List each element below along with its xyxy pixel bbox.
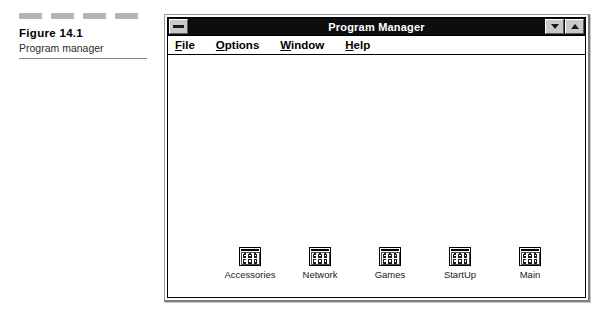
program-group-icon <box>449 247 471 266</box>
minimize-bar-icon <box>173 25 184 28</box>
program-group-label: Main <box>520 269 541 280</box>
program-group-label: Accessories <box>224 269 275 280</box>
menu-item-help[interactable]: Help <box>345 39 370 52</box>
program-group-network[interactable]: Network <box>285 247 355 280</box>
program-group-label: StartUp <box>444 269 476 280</box>
maximize-button[interactable] <box>565 19 584 34</box>
menu-item-options[interactable]: Options <box>216 39 259 52</box>
title-bar[interactable]: Program Manager <box>168 18 585 36</box>
dash-segment <box>115 13 138 19</box>
program-group-accessories[interactable]: Accessories <box>215 247 285 280</box>
program-group-startup[interactable]: StartUp <box>425 247 495 280</box>
program-group-icon <box>309 247 331 266</box>
caption-divider <box>19 58 147 59</box>
program-group-label: Network <box>303 269 338 280</box>
menu-item-window[interactable]: Window <box>280 39 324 52</box>
window-control-menu-button[interactable] <box>169 19 188 34</box>
title-bar-buttons <box>545 19 584 34</box>
program-group-games[interactable]: Games <box>355 247 425 280</box>
client-area[interactable]: AccessoriesNetworkGamesStartUpMain <box>168 55 585 297</box>
window-title: Program Manager <box>168 21 585 33</box>
program-group-icon-row: AccessoriesNetworkGamesStartUpMain <box>168 247 585 280</box>
menu-item-file[interactable]: File <box>175 39 195 52</box>
figure-number: Figure 14.1 <box>19 26 151 40</box>
program-group-main[interactable]: Main <box>495 247 565 280</box>
minimize-button[interactable] <box>545 19 564 34</box>
dash-segment <box>83 13 106 19</box>
dash-segment <box>51 13 74 19</box>
dash-segment <box>19 13 42 19</box>
triangle-down-icon <box>551 24 559 29</box>
program-group-icon <box>379 247 401 266</box>
figure-title: Program manager <box>19 42 151 58</box>
window-frame-inner: Program Manager File Options Window Help… <box>167 17 586 298</box>
program-manager-window[interactable]: Program Manager File Options Window Help… <box>164 14 590 302</box>
program-group-icon <box>239 247 261 266</box>
decorative-dash-rule <box>19 13 151 19</box>
triangle-up-icon <box>571 24 579 29</box>
program-group-label: Games <box>375 269 406 280</box>
program-group-icon <box>519 247 541 266</box>
figure-caption: Figure 14.1 Program manager <box>19 13 151 59</box>
menu-bar: File Options Window Help <box>168 36 585 55</box>
